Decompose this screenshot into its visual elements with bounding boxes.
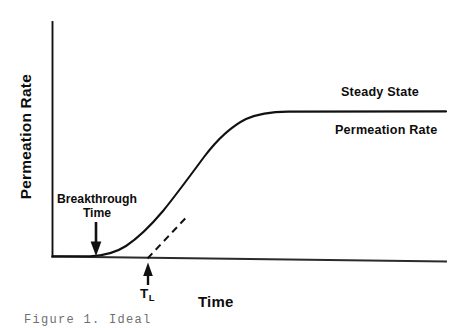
steady-state-permeation-rate-label: Permeation Rate [335, 123, 437, 137]
x-axis-title: Time [198, 294, 234, 311]
breakthrough-time-label: Breakthrough Time [54, 193, 140, 220]
x-axis-line [52, 257, 446, 262]
permeation-plot [0, 0, 462, 328]
steady-state-label: Steady State [341, 85, 419, 99]
lag-time-arrow [143, 263, 153, 286]
permeation-figure: Permeation Rate Time Steady State Permea… [0, 0, 462, 328]
y-axis-title: Permeation Rate [17, 67, 34, 207]
breakthrough-time-label-line2: Time [54, 207, 140, 221]
lag-time-subscript: L [149, 292, 155, 303]
breakthrough-time-arrow [91, 222, 102, 256]
breakthrough-time-label-line1: Breakthrough [57, 192, 137, 206]
lag-time-label: TL [140, 286, 154, 301]
figure-caption: Figure 1. Ideal [24, 313, 152, 328]
lag-time-symbol: T [140, 286, 148, 301]
